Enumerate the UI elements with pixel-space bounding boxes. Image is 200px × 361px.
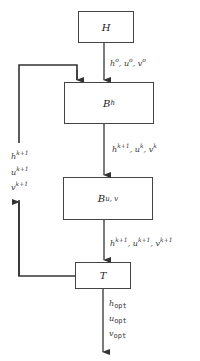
block-h: H [78,11,134,43]
block-buv-label: B [98,193,105,204]
block-t-label: T [100,270,107,281]
label-bh-to-buv: hk+1, uk, vk [112,143,157,154]
label-h-to-bh: ho, uo, vo [110,57,146,68]
label-buv-to-t: hk+1, uk+1, vk+1 [110,237,172,248]
block-buv-sub: u, v [105,195,118,203]
block-bh-label: B [103,98,110,109]
block-t: T [75,262,131,289]
block-buv: Bu, v [63,177,153,220]
block-h-label: H [102,22,111,33]
label-output: hopt uopt vopt [109,300,127,345]
block-bh: Bh [64,82,154,124]
label-feedback: hk+1 uk+1 vk+1 [11,150,29,197]
block-bh-sub: h [110,99,115,107]
